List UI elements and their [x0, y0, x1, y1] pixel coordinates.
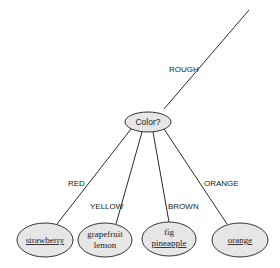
leaf-label-strawberry: strawberry	[26, 235, 65, 245]
edge-brown	[153, 132, 169, 222]
edge-label-yellow: YELLOW	[90, 202, 124, 211]
leaf-label-grapefruit: grapefruit	[87, 229, 123, 239]
edge-label-red: RED	[68, 179, 85, 188]
question-node-label: Color?	[135, 117, 160, 127]
leaf-node-yellow: grapefruit lemon	[78, 223, 132, 257]
edge-label-orange: ORANGE	[204, 179, 239, 188]
edge-label-rough: ROUGH	[169, 65, 199, 74]
leaf-label-fig: fig	[164, 227, 174, 237]
decision-tree-diagram: ROUGH RED YELLOW BROWN ORANGE Color? str…	[0, 0, 280, 268]
edge-label-brown: BROWN	[168, 202, 199, 211]
edge-rough	[164, 10, 249, 109]
leaf-label-pineapple: pineapple	[152, 238, 187, 248]
leaf-label-orange: orange	[228, 235, 253, 245]
leaf-node-brown: fig pineapple	[142, 222, 196, 256]
question-node: Color?	[125, 112, 171, 132]
leaf-label-lemon: lemon	[94, 240, 117, 250]
leaf-node-red: strawberry	[17, 223, 73, 257]
leaf-node-orange: orange	[212, 223, 268, 257]
